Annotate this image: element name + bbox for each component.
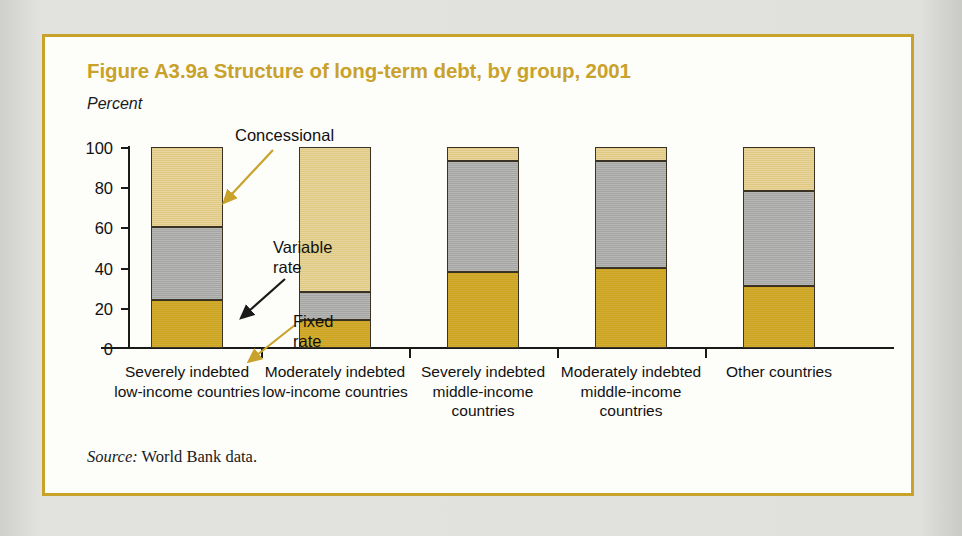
arrow-concessional: [231, 150, 273, 195]
bar-3-segment-concessional: [447, 147, 519, 161]
bar-group-3: [447, 147, 519, 348]
bar-1-segment-variable: [151, 227, 223, 299]
bar-4-segment-concessional: [595, 147, 667, 161]
annotation-label-fixed-rate: Fixed rate: [293, 311, 333, 351]
source-label: Source:: [87, 447, 138, 466]
arrow-variable-rate: [249, 279, 285, 311]
xtick-mark-1: [261, 349, 263, 358]
ytick-label-0: 0: [73, 341, 113, 358]
y-axis-line: [128, 146, 130, 349]
bar-group-1: [151, 147, 223, 348]
bar-1-segment-concessional: [151, 147, 223, 227]
category-label-5: Other countries: [704, 362, 854, 382]
xtick-mark-4: [705, 349, 707, 358]
figure-inner: Figure A3.9a Structure of long-term debt…: [45, 37, 911, 493]
bar-group-4: [595, 147, 667, 348]
category-label-2: Moderately indebted low-income countries: [260, 362, 410, 401]
xtick-mark-3: [557, 349, 559, 358]
annotation-label-variable-rate: Variable rate: [273, 237, 332, 277]
bar-1-segment-fixed: [151, 300, 223, 348]
figure-panel: Figure A3.9a Structure of long-term debt…: [42, 34, 914, 496]
bar-4-segment-variable: [595, 161, 667, 268]
ytick-label-100: 100: [73, 140, 113, 157]
source-value: World Bank data.: [138, 447, 257, 466]
ytick-label-80: 80: [73, 180, 113, 197]
chart-plot-area: 100 80 60 40 20 0: [45, 37, 911, 493]
bar-3-segment-variable: [447, 161, 519, 272]
xtick-mark-2: [409, 349, 411, 358]
category-label-3: Severely indebted middle-income countrie…: [408, 362, 558, 421]
arrow-fixed-rate: [257, 325, 295, 355]
bar-group-5: [743, 147, 815, 348]
ytick-label-60: 60: [73, 220, 113, 237]
figure-root: Figure A3.9a Structure of long-term debt…: [0, 0, 962, 536]
ytick-label-20: 20: [73, 301, 113, 318]
category-label-1: Severely indebted low-income countries: [112, 362, 262, 401]
category-label-4: Moderately indebted middle-income countr…: [556, 362, 706, 421]
bar-5-segment-concessional: [743, 147, 815, 191]
bar-4-segment-fixed: [595, 268, 667, 348]
bar-3-segment-fixed: [447, 272, 519, 348]
annotation-label-concessional: Concessional: [235, 125, 334, 145]
bar-5-segment-fixed: [743, 286, 815, 348]
source-note: Source: World Bank data.: [87, 447, 257, 467]
bar-5-segment-variable: [743, 191, 815, 286]
ytick-label-40: 40: [73, 261, 113, 278]
